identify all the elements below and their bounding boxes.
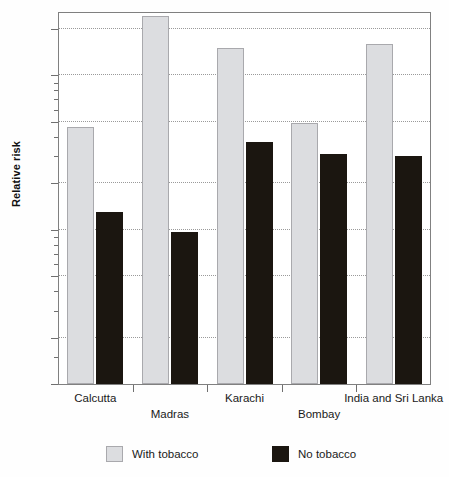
legend-swatch-no-tobacco-icon (272, 446, 289, 462)
bar-karachi-with-tobacco (217, 48, 244, 384)
bar-karachi-no-tobacco (246, 142, 273, 384)
chart-legend: With tobaccoNo tobacco (0, 446, 449, 472)
y-tick-mark (51, 183, 58, 184)
y-tick-mark (51, 75, 58, 76)
x-label-madras: Madras (151, 408, 189, 420)
relative-risk-bar-chart: Relative risk 0.10.20.51251020 CalcuttaM… (0, 0, 449, 477)
gridline (59, 28, 430, 29)
x-label-karachi: Karachi (225, 392, 264, 404)
y-axis-title: Relative risk (10, 124, 22, 224)
y-tick-mark (51, 122, 58, 123)
bar-calcutta-with-tobacco (67, 127, 94, 384)
x-tick-mark (282, 385, 283, 392)
bar-bombay-no-tobacco (320, 154, 347, 384)
y-tick-mark (51, 338, 58, 339)
bar-madras-with-tobacco (142, 16, 169, 384)
bar-calcutta-no-tobacco (96, 212, 123, 384)
x-label-calcutta: Calcutta (74, 392, 116, 404)
x-tick-mark (207, 385, 208, 392)
x-label-bombay: Bombay (298, 408, 340, 420)
x-tick-mark (356, 385, 357, 392)
x-label-india-and-sri-lanka: India and Sri Lanka (344, 392, 443, 404)
y-tick-mark (51, 384, 58, 385)
bar-bombay-with-tobacco (291, 123, 318, 384)
legend-swatch-with-tobacco-icon (106, 446, 123, 462)
y-tick-mark (51, 230, 58, 231)
x-tick-mark (133, 385, 134, 392)
legend-label: With tobacco (132, 448, 198, 460)
y-tick-mark (51, 29, 58, 30)
plot-area (58, 12, 431, 385)
bar-madras-no-tobacco (171, 232, 198, 384)
legend-item-no-tobacco[interactable]: No tobacco (272, 446, 356, 462)
legend-item-with-tobacco[interactable]: With tobacco (106, 446, 198, 462)
bar-india-and-sri-lanka-no-tobacco (395, 156, 422, 384)
bar-india-and-sri-lanka-with-tobacco (366, 44, 393, 384)
legend-label: No tobacco (298, 448, 356, 460)
y-tick-mark (51, 276, 58, 277)
